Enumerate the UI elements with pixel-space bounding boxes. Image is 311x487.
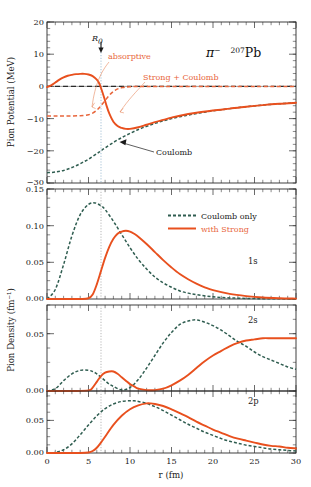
- pion-potential-density-figure: 20 10 0 −10 −20 −30 R0: [0, 0, 311, 487]
- xtick-label-5: 5: [86, 456, 91, 466]
- ytick-1s-005: 0.05: [26, 257, 44, 267]
- ytick-1s-015: 0.15: [26, 184, 44, 194]
- ytick-2s-000: 0.00: [26, 385, 44, 395]
- ylabel-density: Pion Density (fm⁻¹): [6, 288, 16, 372]
- ytick-label-minus10: −10: [27, 114, 44, 124]
- plot-title: π− 207Pb: [205, 45, 261, 60]
- xtick-label-0: 0: [44, 456, 49, 466]
- ytick-2s-005: 0.05: [26, 329, 44, 339]
- panel-1s-frame: [47, 189, 296, 299]
- xtick-label-10: 10: [125, 456, 135, 466]
- ytick-2p-000: 0.00: [26, 447, 44, 457]
- ytick-1s-010: 0.10: [26, 221, 44, 231]
- xtick-label-15: 15: [166, 456, 176, 466]
- ytick-label-0: 0: [39, 81, 44, 91]
- curve-absorptive-potential: [47, 86, 296, 116]
- panel-potential: 20 10 0 −10 −20 −30 R0: [6, 17, 296, 187]
- curve-coulomb-only-1s: [47, 203, 296, 299]
- state-label-2p: 2p: [248, 396, 259, 406]
- xtick-label-20: 20: [208, 456, 218, 466]
- panel-1s: 0.15 0.10 0.05 0.00 Coulomb only with St…: [26, 184, 296, 303]
- figure-container: 20 10 0 −10 −20 −30 R0: [0, 0, 311, 487]
- ytick-1s-000: 0.00: [26, 293, 44, 303]
- legend: Coulomb only with Strong: [168, 212, 257, 234]
- panel-2s-xticks: [47, 305, 296, 391]
- panel-1s-xticks: [47, 189, 296, 299]
- curve-strong-plus-coulomb-potential: [47, 74, 296, 129]
- state-label-2s: 2s: [248, 315, 258, 325]
- curve-coulomb-potential: [47, 103, 296, 173]
- legend-label-coulomb-only: Coulomb only: [201, 212, 257, 221]
- r0-arrow-head: [98, 48, 103, 54]
- coulomb-arrow-head: [120, 139, 127, 145]
- annotation-coulomb: Coulomb: [156, 148, 192, 157]
- panel-2s: 0.05 0.00 2s: [26, 305, 296, 395]
- xaxis-tick-labels: 051015202530: [44, 456, 301, 466]
- panel-potential-yaxis: 20 10 0 −10 −20 −30: [27, 17, 296, 187]
- xtick-label-30: 30: [291, 456, 301, 466]
- ylabel-potential: Pion Potential (MeV): [6, 57, 16, 147]
- ytick-2p-005: 0.05: [26, 415, 44, 425]
- annotation-strong-plus-coulomb: Strong + Coulomb: [143, 73, 219, 82]
- state-label-1s: 1s: [248, 256, 258, 266]
- panel-2p: 0.05 0.00 051015202530 2p r (fm): [26, 391, 301, 480]
- xlabel: r (fm): [159, 470, 184, 480]
- xtick-label-25: 25: [249, 456, 259, 466]
- curve-with-strong-2p: [47, 403, 296, 453]
- annotation-absorptive: absorptive: [108, 52, 151, 61]
- curve-with-strong-1s: [47, 231, 296, 299]
- ytick-label-minus20: −20: [27, 146, 44, 156]
- curve-with-strong-2s: [47, 338, 296, 391]
- panel-2s-frame: [47, 305, 296, 391]
- curve-coulomb-only-2s: [47, 320, 296, 391]
- legend-label-with-strong: with Strong: [201, 225, 249, 234]
- ytick-label-10: 10: [34, 49, 44, 59]
- panel-1s-yaxis: 0.15 0.10 0.05 0.00: [26, 184, 296, 303]
- ytick-label-20: 20: [34, 17, 44, 27]
